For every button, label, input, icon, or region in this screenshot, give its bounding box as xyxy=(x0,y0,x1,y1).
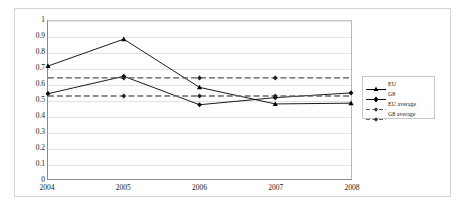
x-tick-label: 2004 xyxy=(40,183,55,192)
y-tick-label: 0.6 xyxy=(23,80,45,88)
legend-label-g8-average: G8 average xyxy=(388,111,415,118)
series-layer xyxy=(48,21,351,179)
legend-item-g8[interactable]: G8 xyxy=(366,90,432,99)
legend-item-eu-average[interactable]: EU average xyxy=(366,100,432,109)
series-eu-average xyxy=(48,75,351,80)
y-tick-label: 0.1 xyxy=(23,160,45,168)
data-point-marker xyxy=(197,75,202,80)
chart-container: 00.10.20.30.40.50.60.70.80.91 2004200520… xyxy=(0,0,459,216)
y-tick-label: 0.7 xyxy=(23,64,45,72)
data-point-marker xyxy=(197,93,202,98)
chart-legend: EU G8 EU average xyxy=(362,76,435,119)
y-tick-label: 1 xyxy=(23,16,45,24)
series-line xyxy=(48,76,351,104)
plot-area xyxy=(47,20,352,180)
y-tick-label: 0.2 xyxy=(23,144,45,152)
y-tick-label: 0.4 xyxy=(23,112,45,120)
x-axis-tick-labels: 20042005200620072008 xyxy=(47,183,353,197)
x-tick-label: 2008 xyxy=(345,183,360,192)
legend-label-eu-average: EU average xyxy=(388,101,416,108)
y-tick-label: 0.5 xyxy=(23,96,45,104)
x-tick-label: 2005 xyxy=(116,183,131,192)
legend-item-g8-average[interactable]: G8 average xyxy=(366,110,432,119)
legend-key-eu-average-icon xyxy=(366,100,386,109)
x-tick-label: 2006 xyxy=(192,183,207,192)
y-axis-tick-labels: 00.10.20.30.40.50.60.70.80.91 xyxy=(21,20,45,180)
legend-key-eu-icon xyxy=(366,80,386,89)
data-point-marker xyxy=(121,37,126,42)
legend-key-g8-icon xyxy=(366,90,386,99)
legend-key-g8-average-icon xyxy=(366,110,386,119)
legend-item-eu[interactable]: EU xyxy=(366,80,432,89)
data-point-marker xyxy=(197,102,202,107)
data-point-marker xyxy=(121,93,126,98)
y-tick-label: 0.8 xyxy=(23,48,45,56)
x-tick-label: 2007 xyxy=(268,183,283,192)
y-tick-label: 0.3 xyxy=(23,128,45,136)
data-point-marker xyxy=(197,85,202,90)
y-tick-label: 0.9 xyxy=(23,32,45,40)
data-point-marker xyxy=(273,75,278,80)
legend-label-eu: EU xyxy=(388,81,396,88)
legend-label-g8: G8 xyxy=(388,91,395,98)
